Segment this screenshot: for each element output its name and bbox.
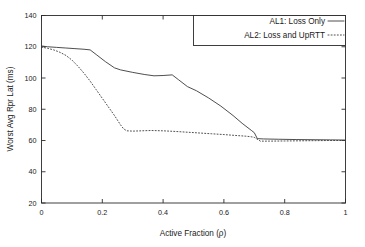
chart-figure: 00.20.40.60.81 20406080100120140 Active … (0, 0, 365, 247)
y-tick-label: 140 (25, 11, 37, 20)
x-tick-label: 0.6 (219, 208, 229, 217)
y-tick-label: 120 (25, 42, 37, 51)
x-axis-tick-labels: 00.20.40.60.81 (40, 208, 348, 217)
line-chart: 00.20.40.60.81 20406080100120140 Active … (0, 0, 365, 247)
series-line-al2 (42, 47, 346, 141)
legend-item-label-al2: AL2: Loss and UpRTT (244, 31, 325, 40)
legend-item-label-al1: AL1: Loss Only (269, 17, 325, 26)
series-line-al1 (42, 46, 346, 140)
x-tick-label: 0.4 (158, 208, 168, 217)
chart-legend: AL1: Loss Only AL2: Loss and UpRTT (194, 16, 346, 46)
y-axis-tick-labels: 20406080100120140 (25, 11, 37, 208)
x-axis-title: Active Fraction (ρ) (160, 229, 227, 238)
x-tick-label: 0.2 (97, 208, 107, 217)
x-tick-label: 0.8 (280, 208, 290, 217)
y-tick-label: 60 (29, 136, 37, 145)
y-tick-label: 20 (29, 199, 37, 208)
y-axis-title: Worst Avg Rpr Lat (ms) (6, 66, 15, 151)
data-series-group (42, 46, 346, 141)
y-tick-label: 80 (29, 105, 37, 114)
y-tick-label: 40 (29, 167, 37, 176)
x-tick-label: 0 (40, 208, 44, 217)
y-tick-label: 100 (25, 74, 37, 83)
x-tick-label: 1 (344, 208, 348, 217)
